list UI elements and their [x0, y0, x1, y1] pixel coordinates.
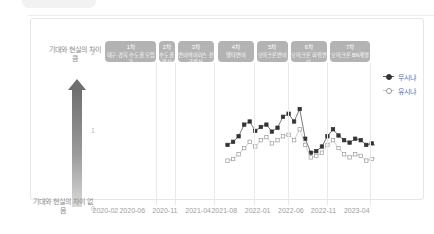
data-point-marker	[354, 153, 357, 156]
expectation-gap-arrow	[68, 79, 86, 207]
data-point-marker	[354, 137, 357, 140]
wave-banner-2[interactable]: 2차수도권확산	[159, 41, 176, 62]
data-point-marker	[248, 120, 251, 123]
wave-banner-5[interactable]: 5차오미크론변이	[257, 41, 288, 62]
data-point-marker	[226, 143, 229, 146]
wave-banner-number: 5차	[257, 44, 288, 52]
data-point-marker	[248, 140, 251, 143]
wave-banner-number: 6차	[291, 44, 327, 52]
wave-banner-text: 오미크론변이	[257, 52, 288, 60]
data-point-marker	[265, 123, 268, 126]
wave-banner-1[interactable]: 1차대구·경북 수도권 모임기	[105, 41, 156, 62]
data-point-marker	[292, 139, 295, 142]
data-point-marker	[270, 142, 273, 145]
data-point-marker	[348, 156, 351, 159]
wave-banner-number: 1차	[105, 44, 156, 52]
data-point-marker	[320, 151, 323, 154]
legend-label: 유시냐	[398, 86, 416, 96]
wave-banner-number: 7차	[330, 44, 370, 52]
data-point-marker	[231, 140, 234, 143]
data-point-marker	[331, 128, 334, 131]
wave-banner-number: 2차	[159, 44, 176, 52]
wave-separator-line	[175, 63, 176, 205]
legend-line-swatch	[383, 90, 394, 91]
data-point-marker	[237, 153, 240, 156]
x-tick-label: 2023-04	[335, 207, 379, 214]
data-point-marker	[270, 130, 273, 133]
data-point-marker	[342, 153, 345, 156]
wave-banner-text: 오미크론 BN계열	[330, 52, 370, 60]
data-point-marker	[304, 143, 307, 146]
data-point-marker	[276, 139, 279, 142]
chart-card: 기대와 현실의 차이 큼 기대와 현실의 차이 없음 1차대구·경북 수도권 모…	[30, 18, 424, 200]
wave-banner-text: 수도권확산	[159, 52, 176, 63]
data-point-marker	[298, 107, 301, 110]
legend-marker-icon	[386, 88, 392, 94]
data-point-marker	[315, 150, 318, 153]
series-line-유시냐	[228, 129, 376, 160]
data-point-marker	[243, 146, 246, 149]
wave-banner-text: 오미크론 하위변이	[291, 52, 327, 63]
data-point-marker	[226, 159, 229, 162]
data-point-marker	[342, 139, 345, 142]
wave-banner-number: 3차	[178, 44, 214, 52]
data-point-marker	[365, 159, 368, 162]
data-point-marker	[348, 141, 351, 144]
wave-banner-3[interactable]: 3차변이바이러스 전국확산	[178, 41, 214, 62]
legend-label: 무시냐	[398, 72, 416, 82]
wave-banner-text: 델타변이	[218, 52, 254, 60]
legend-marker-icon	[386, 74, 392, 80]
data-point-marker	[281, 135, 284, 138]
top-pill-decoration	[22, 0, 96, 8]
data-point-marker	[337, 134, 340, 137]
y-tick-label: 1	[79, 127, 95, 135]
data-point-marker	[304, 137, 307, 140]
data-point-marker	[337, 146, 340, 149]
y-tick-label: 2	[79, 49, 95, 57]
data-point-marker	[259, 125, 262, 128]
data-point-marker	[281, 115, 284, 118]
wave-banner-7[interactable]: 7차오미크론 BN계열	[330, 41, 370, 62]
wave-separator-line	[254, 63, 255, 205]
chart-legend: 무시냐유시냐	[383, 71, 434, 99]
wave-separator-line	[156, 63, 157, 205]
wave-banner-text: 대구·경북 수도권 모임기	[105, 52, 156, 63]
wave-banner-text: 변이바이러스 전국확산	[178, 52, 214, 63]
top-divider	[28, 15, 434, 16]
data-point-marker	[259, 139, 262, 142]
data-point-marker	[359, 154, 362, 157]
data-point-marker	[237, 135, 240, 138]
arrow-shaft	[72, 88, 82, 207]
data-point-marker	[359, 139, 362, 142]
data-point-marker	[292, 120, 295, 123]
data-point-marker	[365, 143, 368, 146]
wave-separator-line	[288, 63, 289, 205]
wave-banner-number: 4차	[218, 44, 254, 52]
wave-banner-4[interactable]: 4차델타변이	[218, 41, 254, 62]
legend-line-swatch	[383, 76, 394, 77]
data-point-marker	[298, 128, 301, 131]
data-point-marker	[265, 135, 268, 138]
wave-separator-line	[327, 63, 328, 205]
wave-banner-6[interactable]: 6차오미크론 하위변이	[291, 41, 327, 62]
wave-separator-line	[370, 63, 371, 205]
line-chart-svg	[103, 41, 375, 209]
legend-item-유시냐[interactable]: 유시냐	[383, 85, 434, 96]
wave-separator-line	[214, 63, 215, 205]
data-point-marker	[315, 154, 318, 157]
data-point-marker	[276, 126, 279, 129]
data-point-marker	[243, 123, 246, 126]
legend-item-무시냐[interactable]: 무시냐	[383, 71, 434, 82]
data-point-marker	[231, 157, 234, 160]
data-point-marker	[309, 156, 312, 159]
plot-area	[103, 41, 375, 209]
data-point-marker	[331, 139, 334, 142]
data-point-marker	[320, 145, 323, 148]
